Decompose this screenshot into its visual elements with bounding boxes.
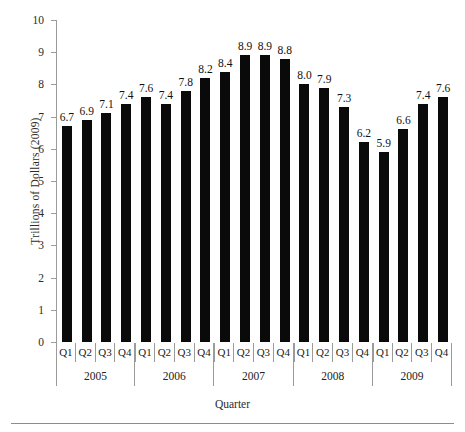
- quarter-tick-label: Q1: [294, 343, 314, 362]
- bar-value-label: 7.4: [416, 89, 430, 102]
- x-axis-title: Quarter: [0, 398, 465, 410]
- bar-chart-figure: Trillions of Dollars (2009) 109876543210…: [0, 0, 465, 432]
- y-axis-tick-label: 2: [38, 270, 44, 286]
- bar[interactable]: [101, 113, 111, 342]
- bar[interactable]: [121, 104, 131, 342]
- bar-slot: 7.9: [314, 20, 334, 342]
- quarter-tick-label: Q4: [353, 343, 373, 362]
- bar[interactable]: [141, 97, 151, 342]
- bar[interactable]: [181, 91, 191, 342]
- bar-value-label: 7.8: [179, 76, 193, 89]
- bar-slot: 7.8: [176, 20, 196, 342]
- bar-slot: 7.4: [156, 20, 176, 342]
- quarter-tick-label: Q4: [115, 343, 135, 362]
- bar[interactable]: [240, 55, 250, 342]
- quarter-tick-label: Q3: [175, 343, 195, 362]
- bar[interactable]: [339, 107, 349, 342]
- quarter-tick-label: Q2: [234, 343, 254, 362]
- bar[interactable]: [82, 120, 92, 342]
- y-axis-tick-label: 7: [38, 109, 44, 125]
- bar-value-label: 7.1: [99, 98, 113, 111]
- bar-value-label: 7.9: [317, 73, 331, 86]
- quarter-tick-label: Q3: [412, 343, 432, 362]
- y-axis-tick-label: 5: [38, 173, 44, 189]
- plot-area: 109876543210 6.76.97.17.47.67.47.88.28.4…: [56, 20, 452, 342]
- bar[interactable]: [379, 152, 389, 342]
- bar[interactable]: [319, 88, 329, 342]
- quarter-tick-label: Q4: [274, 343, 294, 362]
- year-group-label: 2006: [135, 362, 214, 386]
- bar-slot: 8.9: [235, 20, 255, 342]
- bar-slot: 7.4: [116, 20, 136, 342]
- quarter-tick-label: Q2: [76, 343, 96, 362]
- quarter-tick-label: Q1: [56, 343, 76, 362]
- bar[interactable]: [200, 78, 210, 342]
- quarter-tick-label: Q1: [373, 343, 393, 362]
- quarter-tick-label: Q2: [313, 343, 333, 362]
- bar[interactable]: [398, 129, 408, 342]
- bar-slot: 8.4: [215, 20, 235, 342]
- y-axis-tick-label: 6: [38, 141, 44, 157]
- y-axis-tick-label: 8: [38, 76, 44, 92]
- quarter-tick-label: Q4: [432, 343, 452, 362]
- bar-value-label: 8.9: [238, 40, 252, 53]
- bar-value-label: 8.2: [198, 63, 212, 76]
- bar[interactable]: [418, 104, 428, 342]
- year-group-label: 2005: [56, 362, 135, 386]
- bar-slot: 8.8: [275, 20, 295, 342]
- bar-slot: 7.3: [334, 20, 354, 342]
- bar-value-label: 5.9: [377, 137, 391, 150]
- bar-value-label: 7.4: [119, 89, 133, 102]
- bar[interactable]: [299, 84, 309, 342]
- bar[interactable]: [161, 104, 171, 342]
- bar-value-label: 6.2: [357, 127, 371, 140]
- quarter-label-row: Q1Q2Q3Q4Q1Q2Q3Q4Q1Q2Q3Q4Q1Q2Q3Q4Q1Q2Q3Q4: [56, 343, 452, 362]
- y-axis-tick-label: 4: [38, 205, 44, 221]
- bar-value-label: 8.8: [278, 44, 292, 57]
- bar-value-label: 7.6: [436, 82, 450, 95]
- bar-slot: 7.4: [413, 20, 433, 342]
- year-group-label: 2008: [294, 362, 373, 386]
- bar-slot: 7.6: [136, 20, 156, 342]
- y-axis-tick-label: 10: [33, 12, 45, 28]
- year-group-label: 2009: [373, 362, 452, 386]
- bar[interactable]: [280, 59, 290, 342]
- quarter-tick-label: Q2: [393, 343, 413, 362]
- y-axis-tick-label: 9: [38, 44, 44, 60]
- bar-series: 6.76.97.17.47.67.47.88.28.48.98.98.88.07…: [57, 20, 452, 342]
- quarter-tick-label: Q1: [214, 343, 234, 362]
- quarter-tick-label: Q2: [155, 343, 175, 362]
- bar-slot: 7.1: [97, 20, 117, 342]
- y-axis-tick-label: 3: [38, 237, 44, 253]
- bar[interactable]: [62, 126, 72, 342]
- bar-value-label: 6.7: [60, 111, 74, 124]
- quarter-tick-label: Q3: [96, 343, 116, 362]
- bar[interactable]: [220, 72, 230, 342]
- bar-value-label: 7.6: [139, 82, 153, 95]
- bar-slot: 6.6: [394, 20, 414, 342]
- bar-value-label: 7.4: [159, 89, 173, 102]
- bar-slot: 8.9: [255, 20, 275, 342]
- year-label-row: 20052006200720082009: [56, 362, 452, 386]
- year-group-label: 2007: [214, 362, 293, 386]
- bar[interactable]: [359, 142, 369, 342]
- bar[interactable]: [438, 97, 448, 342]
- quarter-tick-label: Q3: [254, 343, 274, 362]
- bar-value-label: 8.9: [258, 40, 272, 53]
- bar-slot: 8.2: [196, 20, 216, 342]
- bar-value-label: 8.4: [218, 57, 232, 70]
- bar-value-label: 8.0: [297, 69, 311, 82]
- bar-slot: 8.0: [295, 20, 315, 342]
- y-axis-tick-label: 0: [38, 334, 44, 350]
- bar-slot: 7.6: [433, 20, 453, 342]
- quarter-tick-label: Q4: [195, 343, 215, 362]
- bar[interactable]: [260, 55, 270, 342]
- bottom-divider: [11, 423, 454, 424]
- bar-slot: 5.9: [374, 20, 394, 342]
- bar-value-label: 7.3: [337, 92, 351, 105]
- bar-slot: 6.9: [77, 20, 97, 342]
- bar-value-label: 6.6: [396, 114, 410, 127]
- quarter-tick-label: Q1: [135, 343, 155, 362]
- bar-slot: 6.2: [354, 20, 374, 342]
- bar-value-label: 6.9: [80, 105, 94, 118]
